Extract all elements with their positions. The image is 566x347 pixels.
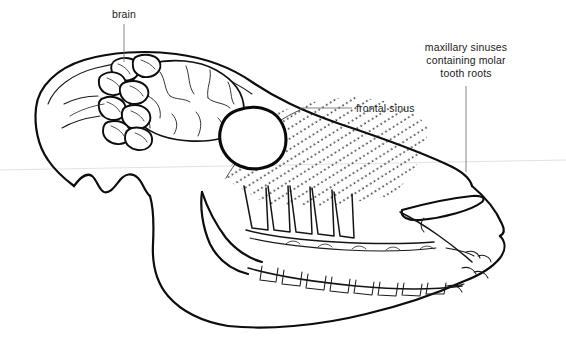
cerebellum-lobe-2 bbox=[133, 55, 161, 77]
frontal-sinus-outline bbox=[220, 107, 286, 169]
label-brain: brain bbox=[112, 8, 136, 20]
label-maxillary-line-2: containing molar bbox=[426, 54, 506, 66]
label-maxillary-line-3: tooth roots bbox=[440, 67, 491, 79]
skull-diagram: brain frontal sinus maxillary sinuses co… bbox=[0, 0, 566, 347]
cerebellum-lobe-4 bbox=[120, 81, 149, 104]
label-maxillary-line-1: maxillary sinuses bbox=[425, 41, 508, 53]
label-frontal-sinus: frontal sinus bbox=[356, 102, 415, 114]
cerebellum-lobe-8 bbox=[125, 128, 152, 151]
